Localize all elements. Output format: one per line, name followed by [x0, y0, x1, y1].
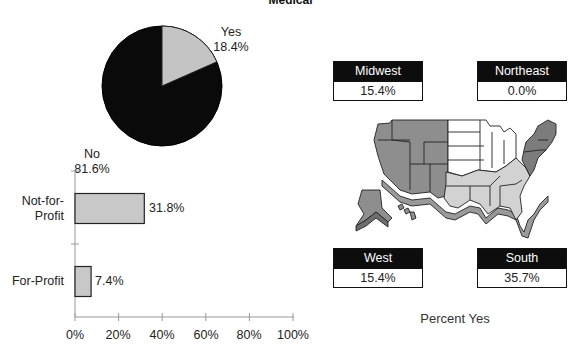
region-name-west: West: [334, 249, 422, 268]
region-value-midwest: 15.4%: [334, 81, 422, 100]
us-region-map: [0, 0, 581, 351]
region-box-midwest: Midwest 15.4%: [333, 61, 423, 101]
region-name-northeast: Northeast: [478, 62, 566, 81]
map-hawaii: [398, 204, 416, 220]
map-caption: Percent Yes: [400, 311, 510, 326]
region-name-midwest: Midwest: [334, 62, 422, 81]
region-name-south: South: [478, 249, 566, 268]
region-box-south: South 35.7%: [477, 248, 567, 288]
region-box-west: West 15.4%: [333, 248, 423, 288]
region-value-south: 35.7%: [478, 268, 566, 287]
region-value-northeast: 0.0%: [478, 81, 566, 100]
region-value-west: 15.4%: [334, 268, 422, 287]
region-box-northeast: Northeast 0.0%: [477, 61, 567, 101]
map-region-northeast: [522, 120, 556, 176]
